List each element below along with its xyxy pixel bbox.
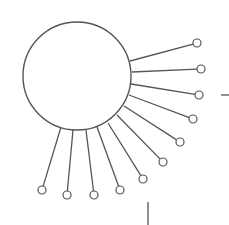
spoke-node: [116, 186, 124, 194]
spoke-node: [90, 191, 98, 199]
hub-circle: [23, 22, 131, 130]
spoke-line: [132, 69, 197, 72]
spoke-node: [38, 186, 46, 194]
spoke-node: [159, 158, 167, 166]
spokes-group: [43, 44, 197, 191]
spoke-line: [108, 123, 141, 176]
hub-spoke-diagram: [0, 0, 229, 225]
spoke-line: [43, 127, 61, 186]
spoke-node: [63, 191, 71, 199]
spoke-node: [197, 65, 205, 73]
spoke-line: [129, 95, 189, 118]
spoke-line: [130, 44, 193, 61]
spoke-node: [139, 175, 147, 183]
diagram-svg: [0, 0, 229, 225]
spoke-node: [176, 138, 184, 146]
spoke-line: [124, 106, 177, 140]
spoke-line: [67, 130, 73, 191]
spoke-node: [193, 39, 201, 47]
spoke-line: [117, 115, 160, 159]
spoke-node: [195, 91, 203, 99]
spoke-node: [189, 115, 197, 123]
spoke-line: [86, 130, 94, 191]
spoke-line: [131, 84, 195, 94]
